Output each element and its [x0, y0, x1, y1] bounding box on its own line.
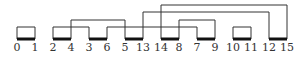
node-label: 8	[176, 41, 183, 54]
node-label: 9	[212, 41, 219, 54]
node-label: 14	[154, 41, 168, 54]
node-label: 0	[14, 41, 21, 54]
node-label: 11	[244, 41, 258, 54]
node-label: 3	[86, 41, 93, 54]
connection-14-15	[161, 5, 287, 39]
node-label: 12	[262, 41, 276, 54]
node-label: 4	[68, 41, 75, 54]
node-label: 15	[280, 41, 294, 54]
node-label: 10	[226, 41, 240, 54]
node-label: 7	[194, 41, 201, 54]
connection-13-12	[143, 12, 269, 39]
arc-diagram: 0124365131487910111215	[0, 0, 306, 58]
connection-lines	[0, 0, 306, 58]
node-label: 2	[50, 41, 57, 54]
node-label: 6	[104, 41, 111, 54]
node-label: 1	[32, 41, 39, 54]
connection-10-11	[233, 27, 251, 39]
connection-0-1	[17, 27, 35, 39]
connection-6-7	[107, 27, 197, 39]
node-label: 13	[136, 41, 150, 54]
connection-4-5	[71, 20, 125, 39]
node-label: 5	[122, 41, 129, 54]
